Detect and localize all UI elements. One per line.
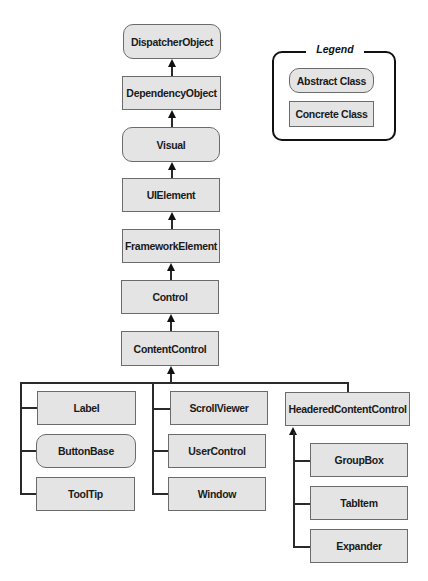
connector (152, 408, 170, 410)
node-tab-item: TabItem (310, 486, 408, 520)
node-window: Window (168, 477, 266, 511)
connector (347, 382, 349, 392)
connector (20, 493, 36, 495)
connector (293, 432, 295, 547)
node-label: Label (37, 391, 136, 425)
connector (293, 460, 310, 462)
legend-concrete-class: Concrete Class (289, 101, 374, 127)
legend-box (272, 51, 396, 141)
legend-abstract-class: Abstract Class (289, 68, 374, 93)
arrow-up-icon (167, 263, 175, 271)
node-scroll-viewer: ScrollViewer (170, 391, 268, 425)
arrow-up-icon (168, 110, 176, 118)
arrow-up-icon (168, 212, 176, 220)
connector (152, 382, 154, 495)
arrow-up-icon (168, 162, 176, 170)
arrow-up-icon (167, 314, 175, 322)
connector (20, 407, 37, 409)
connector (293, 546, 310, 548)
node-headered-content-control: HeaderedContentControl (285, 392, 410, 426)
node-button-base: ButtonBase (36, 434, 136, 468)
connector (20, 450, 36, 452)
node-ui-element: UIElement (122, 178, 220, 212)
legend-title: Legend (306, 43, 364, 55)
node-dispatcher-object: DispatcherObject (123, 24, 221, 59)
node-expander: Expander (310, 529, 408, 563)
connector (152, 493, 168, 495)
node-group-box: GroupBox (310, 443, 408, 477)
arrow-up-icon (167, 366, 175, 374)
node-control: Control (121, 280, 219, 314)
node-content-control: ContentControl (121, 331, 219, 366)
connector (293, 503, 310, 505)
node-visual: Visual (122, 127, 220, 162)
node-framework-element: FrameworkElement (122, 229, 220, 263)
trunk-line (20, 382, 349, 384)
connector (20, 382, 22, 495)
node-user-control: UserControl (168, 434, 266, 468)
connector (152, 450, 168, 452)
arrow-up-icon (168, 59, 176, 67)
node-tool-tip: ToolTip (36, 477, 135, 511)
node-dependency-object: DependencyObject (122, 76, 221, 110)
